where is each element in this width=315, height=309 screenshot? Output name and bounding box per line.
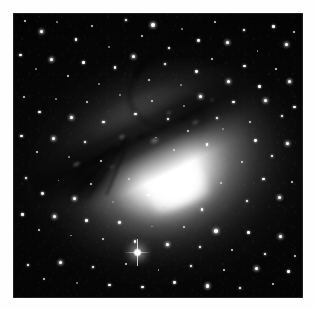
star <box>222 128 224 130</box>
star <box>52 137 55 140</box>
star <box>100 160 102 162</box>
star <box>255 267 258 270</box>
star <box>132 55 135 58</box>
star <box>214 229 218 233</box>
star <box>90 183 92 185</box>
star <box>148 79 150 81</box>
star <box>118 221 121 224</box>
star <box>125 263 127 265</box>
star <box>25 177 27 179</box>
star <box>147 194 149 196</box>
star <box>243 65 245 67</box>
star <box>84 141 86 143</box>
star <box>19 54 21 56</box>
star <box>195 70 198 73</box>
image-viewer <box>0 0 315 309</box>
star <box>151 23 155 27</box>
star <box>181 28 183 30</box>
star <box>114 66 116 68</box>
star <box>58 180 60 182</box>
star <box>246 200 248 202</box>
star <box>68 156 70 158</box>
star <box>141 286 143 288</box>
star <box>199 246 201 248</box>
star <box>183 105 185 107</box>
star <box>211 58 213 60</box>
star <box>85 219 87 221</box>
star <box>247 231 250 234</box>
star <box>27 264 29 266</box>
star <box>291 181 293 183</box>
star <box>243 29 245 31</box>
star <box>21 213 24 216</box>
star <box>216 117 218 119</box>
star <box>286 142 289 145</box>
astronomical-photograph <box>13 13 303 298</box>
star <box>36 151 38 153</box>
star <box>293 106 295 108</box>
star <box>281 115 283 117</box>
star <box>173 281 176 284</box>
star <box>38 111 41 114</box>
star <box>249 121 251 123</box>
star <box>41 192 44 195</box>
star <box>23 96 25 98</box>
star <box>70 235 72 237</box>
star <box>197 39 200 42</box>
star <box>254 139 257 142</box>
star <box>67 75 69 77</box>
star <box>180 84 182 86</box>
star <box>91 25 93 27</box>
star <box>226 41 229 44</box>
star <box>24 20 26 22</box>
star <box>134 240 136 242</box>
star <box>206 143 208 145</box>
star <box>182 189 184 191</box>
star <box>55 98 57 100</box>
star <box>53 215 56 218</box>
star <box>257 50 259 52</box>
star <box>164 63 166 65</box>
star <box>128 178 130 180</box>
star <box>40 30 43 33</box>
star <box>287 270 290 273</box>
star <box>151 100 153 102</box>
star <box>272 283 274 285</box>
star <box>187 130 189 132</box>
star <box>166 243 169 246</box>
star <box>183 226 185 228</box>
star <box>285 43 288 46</box>
star <box>264 99 267 102</box>
bright-foreground-star <box>133 248 142 257</box>
star <box>288 80 291 83</box>
star <box>227 80 230 83</box>
star <box>173 149 175 151</box>
star <box>158 269 160 271</box>
star <box>271 155 273 157</box>
star <box>168 47 170 49</box>
star <box>275 68 277 70</box>
star <box>102 238 104 240</box>
star <box>264 253 266 255</box>
star <box>35 68 37 70</box>
star <box>167 118 169 120</box>
star <box>272 25 275 28</box>
star <box>201 208 203 210</box>
star <box>102 121 104 123</box>
star <box>98 83 100 85</box>
star <box>163 207 165 209</box>
star <box>73 197 76 200</box>
star <box>108 284 111 287</box>
star <box>278 196 281 199</box>
star <box>239 287 241 289</box>
star <box>223 269 225 271</box>
star <box>232 101 235 104</box>
star-field <box>13 13 303 298</box>
star <box>262 178 264 180</box>
star <box>119 94 121 96</box>
star <box>220 182 222 184</box>
star <box>241 161 243 163</box>
star <box>82 61 84 63</box>
star <box>108 46 110 48</box>
star <box>141 35 143 37</box>
